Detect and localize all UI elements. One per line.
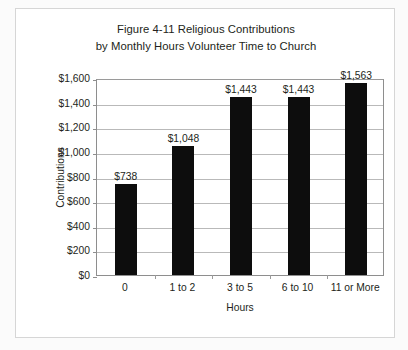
bar-slot: $738 [97, 80, 155, 275]
bar-value-label: $1,443 [264, 84, 334, 95]
figure-frame: Figure 4-11 Religious Contributions by M… [15, 8, 395, 338]
bar [115, 184, 137, 275]
bar-slot: $1,443 [270, 80, 328, 275]
x-axis-tick [212, 275, 213, 279]
y-axis-tick-label: $1,000 [30, 148, 90, 158]
chart-title-line-2: by Monthly Hours Volunteer Time to Churc… [16, 38, 396, 55]
plot-area: $738$1,048$1,443$1,443$1,563 [96, 79, 384, 276]
bar-slot: $1,048 [155, 80, 213, 275]
bar-slot: $1,563 [327, 80, 385, 275]
y-axis-tick-label: $600 [30, 197, 90, 207]
y-axis-tick-label: $0 [30, 271, 90, 281]
bar [288, 97, 310, 275]
x-axis-tick [155, 275, 156, 279]
y-axis-tick-label: $1,400 [30, 99, 90, 109]
y-axis-tick-label: $200 [30, 246, 90, 256]
bar [345, 83, 367, 275]
bar-value-label: $1,048 [148, 133, 218, 144]
x-axis-tick [270, 275, 271, 279]
y-axis-tick-label: $800 [30, 173, 90, 183]
chart-title-line-1: Figure 4-11 Religious Contributions [16, 21, 396, 38]
y-axis-tick [93, 277, 97, 278]
y-axis-tick-label: $1,600 [30, 74, 90, 84]
chart-title: Figure 4-11 Religious Contributions by M… [16, 21, 396, 54]
y-axis-tick-label: $400 [30, 222, 90, 232]
bar [172, 146, 194, 275]
x-axis-title: Hours [96, 302, 384, 313]
y-axis-tick-label: $1,200 [30, 123, 90, 133]
bar [230, 97, 252, 275]
bar-value-label: $738 [91, 171, 161, 182]
x-axis-tick [327, 275, 328, 279]
bar-slot: $1,443 [212, 80, 270, 275]
bar-value-label: $1,563 [321, 70, 391, 81]
x-axis-tick-label: 11 or More [310, 282, 400, 293]
